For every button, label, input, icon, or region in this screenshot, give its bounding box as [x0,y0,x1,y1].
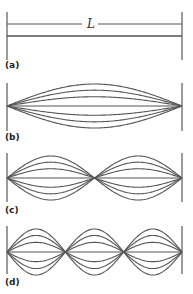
wave-curve [7,242,182,252]
wave-curve [7,252,182,275]
wave-curve [7,84,182,106]
wave-curve [7,106,182,115]
third-harmonic-curves [7,229,182,275]
wave-curve [7,90,182,106]
panel-a: L (a) [5,12,182,70]
panel-label-d: (d) [5,277,20,287]
length-label: L [86,17,95,31]
wave-curve [7,106,182,122]
wave-curve [7,235,182,252]
wave-curve [7,97,182,106]
standing-waves-diagram: L (a) (b) (c) (d) [0,0,193,294]
panel-label-b: (b) [5,132,20,142]
panel-b: (b) [5,83,182,142]
wave-curve [7,252,182,269]
wave-curve [7,178,182,187]
second-harmonic-curves [7,156,182,200]
wave-curve [7,156,182,178]
wave-curve [7,106,182,128]
panel-d: (d) [5,226,182,287]
panel-label-c: (c) [5,205,19,215]
wave-curve [7,169,182,178]
fundamental-mode-curves [7,84,182,128]
wave-curve [7,229,182,252]
wave-curve [7,252,182,262]
wave-curve [7,178,182,200]
panel-label-a: (a) [5,60,19,70]
panel-c: (c) [5,153,182,215]
